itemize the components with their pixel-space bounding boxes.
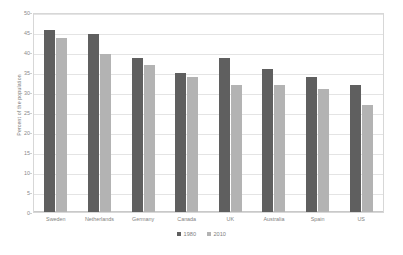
x-tick-label: Germany <box>121 216 165 222</box>
bar <box>88 34 99 212</box>
bar <box>306 77 317 212</box>
bar <box>219 58 230 212</box>
bar-group <box>34 14 78 212</box>
x-tick-label: Spain <box>296 216 340 222</box>
y-tick-mark <box>30 153 32 154</box>
y-tick-label: 40 <box>4 50 30 56</box>
bar-chart: Percent of the population 05101520253035… <box>0 0 403 255</box>
bar <box>350 85 361 212</box>
legend-item[interactable]: 2010 <box>207 231 226 237</box>
bar-group <box>121 14 165 212</box>
bar <box>187 77 198 212</box>
bar <box>262 69 273 212</box>
bar <box>132 58 143 212</box>
y-tick-mark <box>30 173 32 174</box>
x-tick-label: UK <box>209 216 253 222</box>
bar <box>362 105 373 212</box>
bar-group <box>165 14 209 212</box>
bar <box>100 54 111 212</box>
y-tick-label: 10 <box>4 170 30 176</box>
bar <box>274 85 285 212</box>
y-tick-mark <box>30 73 32 74</box>
chart-legend: 19802010 <box>0 231 403 237</box>
y-tick-mark <box>30 133 32 134</box>
x-tick-label: Canada <box>165 216 209 222</box>
y-tick-mark <box>30 53 32 54</box>
legend-item[interactable]: 1980 <box>177 231 196 237</box>
y-tick-label: 35 <box>4 70 30 76</box>
y-tick-label: 45 <box>4 30 30 36</box>
x-tick-label: Sweden <box>34 216 78 222</box>
y-tick-label: 20 <box>4 130 30 136</box>
x-tick-label: Netherlands <box>78 216 122 222</box>
x-axis-labels: SwedenNetherlandsGermanyCanadaUKAustrali… <box>34 216 383 222</box>
y-tick-label: 5 <box>4 190 30 196</box>
bar <box>231 85 242 212</box>
bar <box>56 38 67 212</box>
x-tick-label: US <box>339 216 383 222</box>
y-tick-label: 0 <box>4 210 30 216</box>
y-axis-ticks: 05101520253035404550 <box>0 13 30 213</box>
x-tick-label: Australia <box>252 216 296 222</box>
y-tick-mark <box>30 93 32 94</box>
bar-group <box>78 14 122 212</box>
legend-swatch-icon <box>177 232 181 236</box>
bar <box>144 65 155 212</box>
bar-group <box>339 14 383 212</box>
bar-groups <box>34 14 383 212</box>
bar <box>318 89 329 212</box>
y-tick-label: 30 <box>4 90 30 96</box>
bar <box>44 30 55 212</box>
legend-label: 2010 <box>214 231 226 237</box>
legend-label: 1980 <box>184 231 196 237</box>
bar <box>175 73 186 212</box>
legend-swatch-icon <box>207 232 211 236</box>
y-tick-mark <box>30 113 32 114</box>
bar-group <box>296 14 340 212</box>
y-tick-mark <box>30 193 32 194</box>
y-tick-label: 50 <box>4 10 30 16</box>
y-tick-mark <box>30 13 32 14</box>
y-tick-mark <box>30 213 32 214</box>
y-tick-mark <box>30 33 32 34</box>
bar-group <box>252 14 296 212</box>
y-tick-label: 15 <box>4 150 30 156</box>
y-tick-label: 25 <box>4 110 30 116</box>
bar-group <box>209 14 253 212</box>
